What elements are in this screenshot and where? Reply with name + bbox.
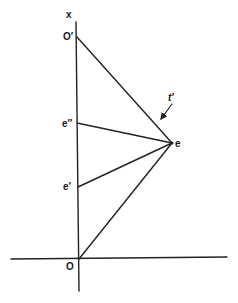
event-lower-label: e′ [63,182,71,192]
axis-x-label: x [66,10,72,20]
line-e-double-prime-to-e [77,123,172,143]
line-O-to-e [79,143,172,259]
line-e-prime-to-e [78,143,172,187]
arrow-t-prime-label: t′ [168,93,174,103]
line-O-prime-to-e [77,37,172,143]
horizontal-axis [11,257,227,259]
point-e-dot [170,141,173,144]
vertical-axis [76,22,79,291]
event-upper-label: e″ [62,119,72,129]
origin-label: O [66,262,74,272]
event-label: e [175,139,181,149]
diagram-canvas [0,0,238,303]
origin-top-label: O′ [63,32,73,42]
arrow-t-prime [161,104,172,119]
